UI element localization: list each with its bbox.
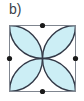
bottom-midpoint-dot bbox=[40, 89, 45, 94]
left-midpoint-dot bbox=[7, 56, 12, 61]
figure-panel: b) bbox=[0, 0, 84, 101]
right-midpoint-dot bbox=[73, 56, 78, 61]
top-midpoint-dot bbox=[40, 23, 45, 28]
rosette-diagram bbox=[0, 0, 84, 101]
